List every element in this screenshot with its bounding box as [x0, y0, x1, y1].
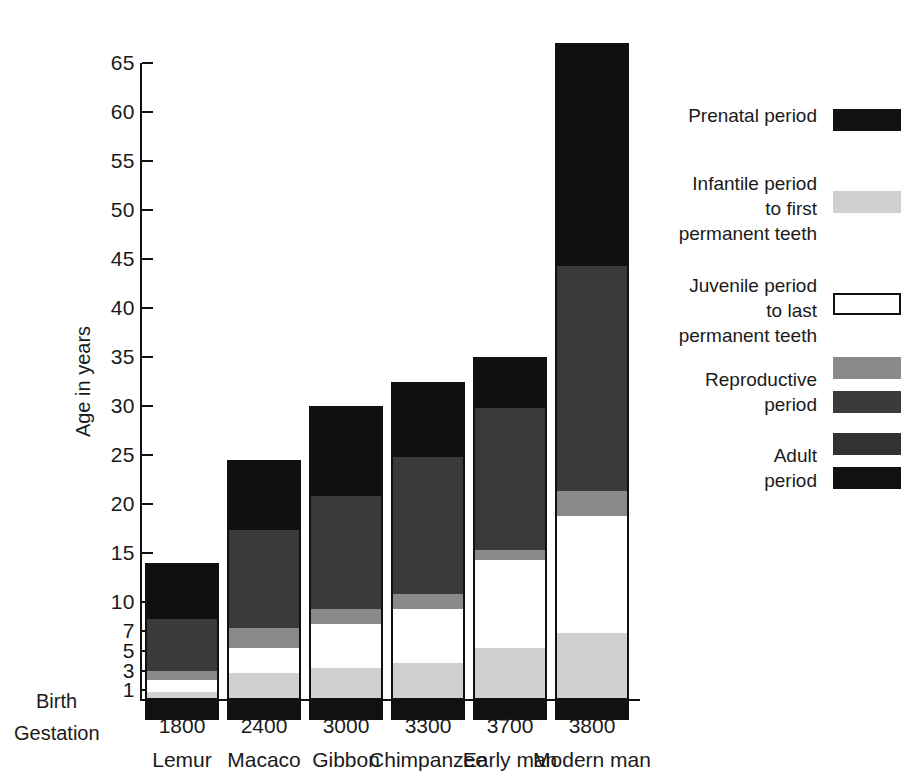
- chart-canvas: 6560555045403530252015107531 Age in year…: [0, 0, 917, 780]
- bar-segment-infantile: [229, 673, 299, 700]
- birth-axis-label: Birth: [36, 690, 77, 713]
- y-tick-label: 50: [111, 199, 135, 220]
- gestation-value: 3800: [555, 714, 629, 738]
- bar-segment-adult: [475, 359, 545, 408]
- y-tick-mark: [142, 307, 153, 309]
- y-tick-mark: [142, 503, 153, 505]
- bar-segment-adult: [147, 565, 217, 619]
- bar-segment-reproductive_early: [475, 550, 545, 560]
- bar-segment-infantile: [557, 633, 627, 700]
- y-tick-label: 45: [111, 248, 135, 269]
- bar-segment-reproductive_early: [147, 671, 217, 681]
- gestation-value: 1800: [145, 714, 219, 738]
- y-tick-label: 10: [111, 591, 135, 612]
- bar-segment-infantile: [393, 663, 463, 700]
- bar-segment-juvenile: [229, 648, 299, 673]
- y-tick-mark: [142, 552, 153, 554]
- y-tick-label: 30: [111, 395, 135, 416]
- bar-segment-juvenile: [311, 624, 381, 668]
- legend-swatch: [833, 293, 901, 315]
- legend-swatch: [833, 433, 901, 455]
- bar-segment-reproductive_late: [311, 496, 381, 609]
- bar-stack-modern-man[interactable]: [555, 43, 629, 700]
- bar-segment-adult: [393, 384, 463, 458]
- legend-swatch: [833, 191, 901, 213]
- bar-stack-lemur[interactable]: [145, 563, 219, 700]
- y-tick-label: 40: [111, 297, 135, 318]
- bar-segment-infantile: [147, 692, 217, 700]
- bar-stack-macaco[interactable]: [227, 460, 301, 700]
- bar-segment-adult: [229, 462, 299, 531]
- y-axis-title: Age in years: [72, 282, 95, 482]
- y-tick-mark: [142, 356, 153, 358]
- bar-segment-reproductive_late: [557, 266, 627, 491]
- chart-legend: Prenatal periodInfantile period to first…: [655, 95, 917, 465]
- y-tick-label: 1: [123, 679, 135, 700]
- y-tick-label: 5: [123, 640, 135, 661]
- legend-swatch: [833, 391, 901, 413]
- bar-segment-adult: [311, 408, 381, 496]
- bar-segment-juvenile: [557, 516, 627, 634]
- legend-swatch: [833, 467, 901, 489]
- gestation-value: 3700: [473, 714, 547, 738]
- y-tick-label: 55: [111, 150, 135, 171]
- gestation-value: 3000: [309, 714, 383, 738]
- bar-segment-reproductive_early: [393, 594, 463, 609]
- legend-label: Juvenile period to last permanent teeth: [655, 273, 817, 348]
- y-tick-label: 60: [111, 101, 135, 122]
- bar-segment-infantile: [311, 668, 381, 700]
- y-tick-label: 35: [111, 346, 135, 367]
- y-tick-mark: [142, 160, 153, 162]
- bar-stack-chimpanzee[interactable]: [391, 382, 465, 701]
- y-tick-label: 25: [111, 444, 135, 465]
- bar-stack-gibbon[interactable]: [309, 406, 383, 700]
- y-tick-label: 15: [111, 542, 135, 563]
- y-tick-mark: [142, 62, 153, 64]
- bar-segment-juvenile: [475, 560, 545, 648]
- bar-segment-reproductive_early: [311, 609, 381, 624]
- y-tick-mark: [142, 111, 153, 113]
- legend-swatch: [833, 109, 901, 131]
- bar-segment-infantile: [475, 648, 545, 700]
- legend-label: Adult period: [655, 443, 817, 493]
- bar-segment-reproductive_late: [229, 530, 299, 628]
- bar-segment-reproductive_late: [475, 408, 545, 550]
- bar-stack-early-man[interactable]: [473, 357, 547, 700]
- bar-segment-reproductive_late: [393, 457, 463, 594]
- bar-segment-adult: [557, 45, 627, 266]
- category-label: Modern man: [533, 748, 651, 772]
- bar-segment-reproductive_early: [557, 491, 627, 516]
- legend-label: Prenatal period: [655, 103, 817, 128]
- y-tick-label: 65: [111, 52, 135, 73]
- y-axis-line: [140, 63, 142, 701]
- bar-segment-reproductive_late: [147, 619, 217, 671]
- gestation-axis-label: Gestation: [14, 722, 100, 745]
- y-tick-label: 20: [111, 493, 135, 514]
- y-tick-mark: [142, 258, 153, 260]
- legend-label: Infantile period to first permanent teet…: [655, 171, 817, 246]
- legend-label: Reproductive period: [655, 367, 817, 417]
- bar-segment-reproductive_early: [229, 628, 299, 648]
- gestation-value: 3300: [391, 714, 465, 738]
- bar-segment-juvenile: [393, 609, 463, 663]
- bar-segment-juvenile: [147, 680, 217, 692]
- y-tick-mark: [142, 405, 153, 407]
- gestation-value: 2400: [227, 714, 301, 738]
- y-tick-mark: [142, 454, 153, 456]
- y-tick-mark: [142, 209, 153, 211]
- legend-swatch: [833, 357, 901, 379]
